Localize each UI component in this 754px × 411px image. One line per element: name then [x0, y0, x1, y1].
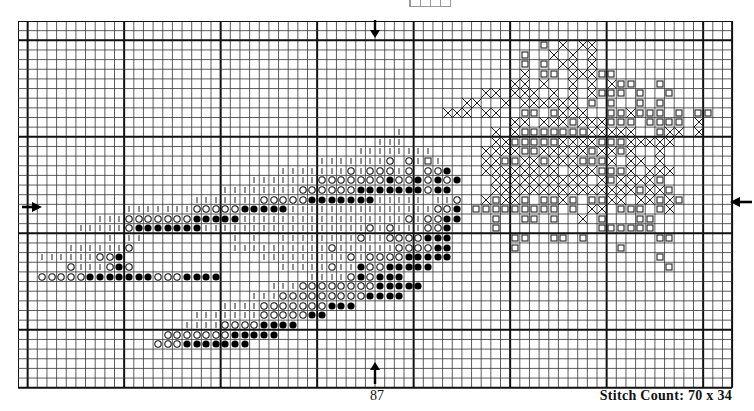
square-stitch	[549, 195, 559, 205]
square-stitch	[510, 233, 520, 243]
tick-stitch	[230, 233, 240, 243]
open-circle-stitch	[375, 166, 385, 176]
square-stitch	[520, 127, 530, 137]
filled-circle-stitch	[385, 291, 395, 301]
square-stitch	[636, 224, 646, 234]
cross-stitch	[578, 175, 588, 185]
cross-stitch	[472, 98, 482, 108]
tick-stitch	[288, 253, 298, 263]
filled-circle-stitch	[134, 224, 144, 234]
filled-circle-stitch	[365, 185, 375, 195]
filled-circle-stitch	[86, 272, 96, 282]
cross-stitch	[578, 166, 588, 176]
tick-stitch	[269, 214, 279, 224]
cross-stitch	[549, 89, 559, 99]
tick-stitch	[279, 175, 289, 185]
top-center-arrow	[370, 20, 380, 42]
cross-stitch	[607, 156, 617, 166]
cross-stitch	[626, 185, 636, 195]
square-stitch	[597, 69, 607, 79]
open-circle-stitch	[279, 301, 289, 311]
tick-stitch	[327, 166, 337, 176]
filled-circle-stitch	[192, 214, 202, 224]
cross-stitch	[665, 195, 675, 205]
open-circle-stitch	[66, 272, 76, 282]
square-stitch	[626, 224, 636, 234]
filled-circle-stitch	[365, 195, 375, 205]
tick-stitch	[308, 243, 318, 253]
open-circle-stitch	[124, 243, 134, 253]
filled-circle-stitch	[201, 272, 211, 282]
tick-stitch	[336, 233, 346, 243]
filled-circle-stitch	[394, 291, 404, 301]
open-circle-stitch	[134, 214, 144, 224]
cross-stitch	[501, 185, 511, 195]
tick-stitch	[66, 243, 76, 253]
open-circle-stitch	[433, 224, 443, 234]
square-stitch	[665, 185, 675, 195]
tick-stitch	[327, 224, 337, 234]
open-circle-stitch	[375, 253, 385, 263]
tick-stitch	[221, 311, 231, 321]
cross-stitch	[558, 60, 568, 70]
square-stitch	[655, 195, 665, 205]
cross-stitch	[558, 137, 568, 147]
tick-stitch	[336, 214, 346, 224]
tick-stitch	[172, 204, 182, 214]
tick-stitch	[404, 204, 414, 214]
tick-stitch	[443, 195, 453, 205]
filled-circle-stitch	[375, 291, 385, 301]
cross-stitch	[520, 69, 530, 79]
square-stitch	[597, 195, 607, 205]
cross-stitch	[529, 185, 539, 195]
cross-stitch	[549, 98, 559, 108]
open-circle-stitch	[365, 175, 375, 185]
filled-circle-stitch	[356, 185, 366, 195]
filled-circle-stitch	[365, 291, 375, 301]
tick-stitch	[336, 204, 346, 214]
square-stitch	[568, 127, 578, 137]
tick-stitch	[317, 156, 327, 166]
square-stitch	[520, 108, 530, 118]
tick-stitch	[259, 214, 269, 224]
tick-stitch	[298, 214, 308, 224]
filled-circle-stitch	[230, 214, 240, 224]
filled-circle-stitch	[221, 214, 231, 224]
filled-circle-stitch	[269, 320, 279, 330]
tick-stitch	[346, 156, 356, 166]
open-circle-stitch	[365, 166, 375, 176]
open-circle-stitch	[385, 166, 395, 176]
cross-stitch	[520, 185, 530, 195]
square-stitch	[472, 204, 482, 214]
filled-circle-stitch	[259, 330, 269, 340]
tick-stitch	[394, 166, 404, 176]
tick-stitch	[288, 214, 298, 224]
tick-stitch	[327, 156, 337, 166]
open-circle-stitch	[201, 204, 211, 214]
cross-stitch	[539, 166, 549, 176]
tick-stitch	[269, 282, 279, 292]
tick-stitch	[250, 175, 260, 185]
cross-stitch	[665, 137, 675, 147]
open-circle-stitch	[172, 272, 182, 282]
tick-stitch	[95, 214, 105, 224]
cross-stitch	[587, 69, 597, 79]
tick-stitch	[221, 185, 231, 195]
square-stitch	[655, 118, 665, 128]
filled-circle-stitch	[423, 253, 433, 263]
open-circle-stitch	[298, 282, 308, 292]
cross-stitch	[520, 156, 530, 166]
open-circle-stitch	[211, 330, 221, 340]
cross-stitch	[568, 185, 578, 195]
tick-stitch	[259, 224, 269, 234]
tick-stitch	[221, 301, 231, 311]
filled-circle-stitch	[404, 282, 414, 292]
cross-stitch	[645, 166, 655, 176]
tick-stitch	[336, 243, 346, 253]
open-circle-stitch	[375, 175, 385, 185]
square-stitch	[636, 108, 646, 118]
page-number: 87	[370, 388, 384, 404]
open-circle-stitch	[356, 175, 366, 185]
square-stitch	[674, 195, 684, 205]
tick-stitch	[86, 224, 96, 234]
